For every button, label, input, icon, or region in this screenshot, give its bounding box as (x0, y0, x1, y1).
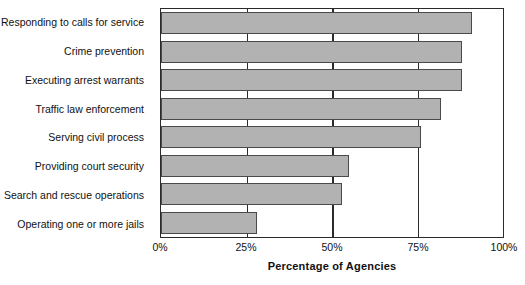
category-label: Crime prevention (64, 45, 144, 57)
bar-row (161, 123, 503, 152)
bar-row (161, 38, 503, 67)
bar (161, 183, 342, 205)
bar-row (161, 209, 503, 238)
bar-row (161, 152, 503, 181)
bar (161, 69, 462, 91)
category-label: Operating one or more jails (17, 218, 144, 230)
category-label: Traffic law enforcement (35, 103, 144, 115)
bar (161, 212, 257, 234)
category-label: Serving civil process (48, 131, 144, 143)
category-label: Search and rescue operations (4, 189, 144, 201)
category-axis-labels: Responding to calls for serviceCrime pre… (0, 8, 152, 238)
category-label-row: Operating one or more jails (0, 209, 152, 238)
category-label-row: Search and rescue operations (0, 181, 152, 210)
plot-area (160, 8, 504, 238)
category-label-row: Serving civil process (0, 123, 152, 152)
bars-layer (161, 9, 503, 237)
category-label: Executing arrest warrants (25, 74, 144, 86)
x-tick-label: 100% (491, 241, 518, 254)
x-tick-label: 75% (407, 241, 428, 254)
x-axis-title: Percentage of Agencies (160, 260, 504, 272)
category-label-row: Providing court security (0, 152, 152, 181)
category-label-row: Responding to calls for service (0, 8, 152, 37)
bar (161, 126, 421, 148)
bar-row (161, 180, 503, 209)
bar (161, 41, 462, 63)
x-tick-label: 25% (235, 241, 256, 254)
bar (161, 12, 472, 34)
x-axis-tick-labels: 0%25%50%75%100% (160, 241, 504, 255)
category-label-row: Crime prevention (0, 37, 152, 66)
bar-row (161, 95, 503, 124)
bar-row (161, 66, 503, 95)
category-label-row: Traffic law enforcement (0, 94, 152, 123)
bar (161, 98, 441, 120)
x-tick-label: 50% (321, 241, 342, 254)
bar-row (161, 9, 503, 38)
bar (161, 155, 349, 177)
bar-chart: Responding to calls for serviceCrime pre… (0, 0, 525, 285)
x-tick-label: 0% (152, 241, 167, 254)
category-label: Providing court security (35, 160, 144, 172)
category-label: Responding to calls for service (1, 16, 144, 28)
category-label-row: Executing arrest warrants (0, 66, 152, 95)
